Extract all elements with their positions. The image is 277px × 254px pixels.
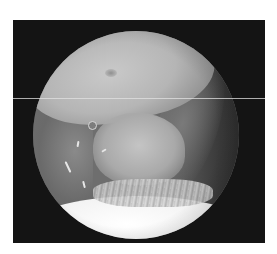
black-frame (13, 20, 265, 243)
endoscope-field-of-view (33, 31, 239, 239)
scan-line-artifact (13, 98, 265, 99)
lens-vignette (33, 31, 239, 239)
image-canvas (0, 0, 277, 254)
